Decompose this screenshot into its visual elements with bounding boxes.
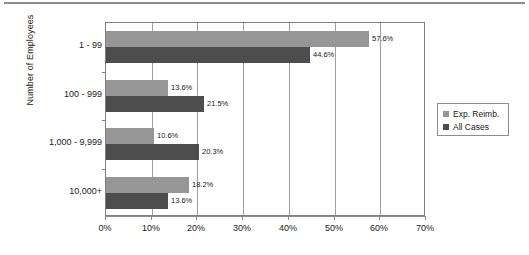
y-axis-category-label: 1,000 - 9,999 bbox=[10, 137, 102, 147]
bar-value-label: 18.2% bbox=[192, 180, 213, 190]
x-axis-tick-label: 20% bbox=[176, 223, 216, 233]
legend-item-label: Exp. Reimb. bbox=[453, 109, 499, 119]
x-axis-tick bbox=[334, 216, 335, 220]
x-axis-tick bbox=[288, 216, 289, 220]
bar bbox=[106, 96, 204, 112]
gridline-vertical bbox=[380, 23, 381, 215]
bar-value-label: 10.6% bbox=[157, 131, 178, 141]
y-axis-category-label: 100 - 999 bbox=[10, 89, 102, 99]
bar-value-label: 20.3% bbox=[202, 147, 223, 157]
x-axis-line bbox=[105, 216, 425, 217]
x-axis-tick bbox=[425, 216, 426, 220]
legend-item-label: All Cases bbox=[453, 122, 489, 132]
bar bbox=[106, 177, 189, 193]
y-axis-category-label: 1 - 99 bbox=[10, 40, 102, 50]
legend-swatch-icon bbox=[443, 111, 449, 117]
x-axis-tick bbox=[105, 216, 106, 220]
chart-legend: Exp. Reimb.All Cases bbox=[437, 103, 509, 136]
x-axis-tick bbox=[196, 216, 197, 220]
x-axis-tick-label: 30% bbox=[222, 223, 262, 233]
bar-value-label: 13.6% bbox=[171, 196, 192, 206]
bar bbox=[106, 31, 369, 47]
legend-item[interactable]: All Cases bbox=[443, 121, 508, 133]
bar-value-label: 13.6% bbox=[171, 83, 192, 93]
y-axis-category-labels: 1 - 99100 - 9991,000 - 9,99910,000+ bbox=[8, 22, 102, 216]
legend-swatch-icon bbox=[443, 124, 449, 130]
x-axis-tick-label: 70% bbox=[405, 223, 445, 233]
gridline-vertical bbox=[335, 23, 336, 215]
bar-value-label: 44.6% bbox=[313, 50, 334, 60]
x-axis-tick-label: 40% bbox=[268, 223, 308, 233]
y-axis-category-tick bbox=[102, 120, 106, 121]
x-axis-tick-label: 0% bbox=[85, 223, 125, 233]
bar bbox=[106, 80, 168, 96]
x-axis-tick bbox=[242, 216, 243, 220]
x-axis-tick-label: 50% bbox=[314, 223, 354, 233]
legend-item[interactable]: Exp. Reimb. bbox=[443, 108, 508, 120]
x-axis-tick-label: 60% bbox=[359, 223, 399, 233]
y-axis-category-label: 10,000+ bbox=[10, 186, 102, 196]
bar-value-label: 57.6% bbox=[372, 34, 393, 44]
y-axis-category-tick bbox=[102, 169, 106, 170]
plot-area: 57.6%44.6%13.6%21.5%10.6%20.3%18.2%13.6% bbox=[105, 22, 425, 216]
x-axis-tick-label: 10% bbox=[131, 223, 171, 233]
bar bbox=[106, 47, 310, 63]
bar bbox=[106, 128, 154, 144]
x-axis-tick bbox=[151, 216, 152, 220]
bar-chart: Number of Employees 1 - 99100 - 9991,000… bbox=[0, 0, 529, 255]
y-axis-category-tick bbox=[102, 72, 106, 73]
bar bbox=[106, 144, 199, 160]
x-axis-tick bbox=[379, 216, 380, 220]
bar-value-label: 21.5% bbox=[207, 99, 228, 109]
bar bbox=[106, 193, 168, 209]
top-divider-rule bbox=[4, 2, 525, 4]
